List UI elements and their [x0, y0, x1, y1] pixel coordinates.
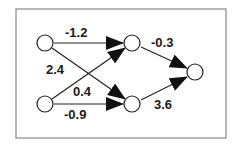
weight-label: 3.6 [154, 97, 172, 112]
node-hidden-2 [124, 96, 140, 112]
weight-label: -1.2 [65, 25, 87, 40]
weight-label: 2.4 [46, 62, 65, 77]
weight-label: -0.9 [64, 107, 86, 122]
node-input-2 [37, 96, 53, 112]
neural-network-diagram: -1.2 2.4 0.4 -0.9 -0.3 3.6 [0, 0, 238, 149]
weight-label: 0.4 [73, 84, 92, 99]
node-hidden-1 [124, 35, 140, 51]
node-output [187, 64, 203, 80]
node-input-1 [37, 35, 53, 51]
weight-label: -0.3 [151, 35, 173, 50]
